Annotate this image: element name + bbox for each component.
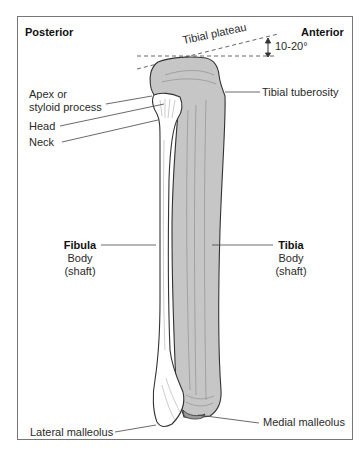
posterior-label: Posterior bbox=[25, 26, 73, 39]
lateral-malleolus-label: Lateral malleolus bbox=[30, 426, 113, 439]
fibula-label: Fibula Body (shaft) bbox=[62, 239, 98, 278]
neck-label: Neck bbox=[29, 136, 54, 149]
fibula-title: Fibula bbox=[62, 239, 98, 252]
apex-label-line1: Apex or bbox=[29, 88, 67, 101]
tibia-fibula-illustration bbox=[0, 0, 364, 455]
fibula-shaft: (shaft) bbox=[62, 265, 98, 278]
anterior-label: Anterior bbox=[301, 26, 344, 39]
angle-arrow-icon bbox=[266, 38, 271, 57]
tibial-tuberosity-label: Tibial tuberosity bbox=[262, 86, 339, 99]
fibula-body: Body bbox=[62, 252, 98, 265]
tibia-shaft: (shaft) bbox=[273, 265, 309, 278]
tibia-title: Tibia bbox=[273, 239, 309, 252]
apex-label-line2: styloid process bbox=[29, 101, 102, 114]
angle-label: 10-20° bbox=[275, 40, 308, 53]
tibia-label: Tibia Body (shaft) bbox=[273, 239, 309, 278]
head-label: Head bbox=[29, 120, 55, 133]
tibia-body: Body bbox=[273, 252, 309, 265]
medial-malleolus-label: Medial malleolus bbox=[263, 416, 345, 429]
